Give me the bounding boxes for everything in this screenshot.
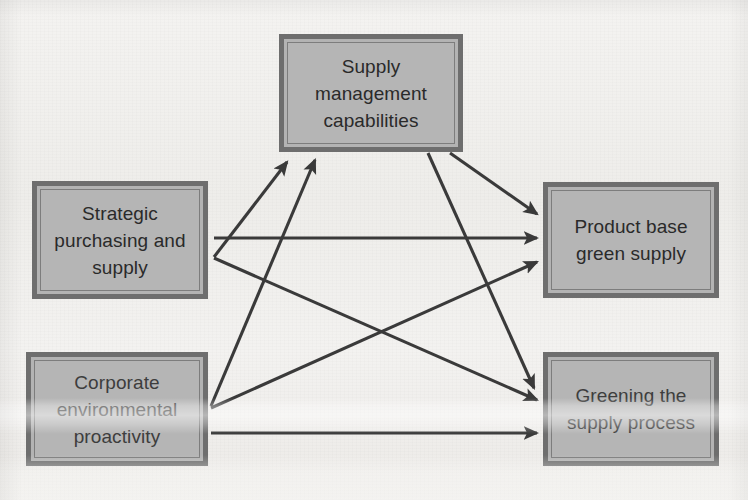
node-greening-the-supply-process-label: Greening the supply process xyxy=(567,382,695,436)
node-supply-management: Supply management capabilities xyxy=(279,34,463,152)
node-product-base-green-supply: Product base green supply xyxy=(543,182,719,298)
node-product-base-green-supply-label: Product base green supply xyxy=(574,213,687,267)
node-corporate-environmental-proactivity-inner: Corporate environmental proactivity xyxy=(34,360,200,458)
node-greening-the-supply-process-inner: Greening the supply process xyxy=(551,360,711,458)
node-supply-management-label: Supply management capabilities xyxy=(315,53,427,134)
node-greening-the-supply-process: Greening the supply process xyxy=(543,352,719,466)
diagram-canvas: Supply management capabilities Strategic… xyxy=(0,0,748,500)
node-strategic-purchasing: Strategic purchasing and supply xyxy=(32,181,208,299)
node-supply-management-inner: Supply management capabilities xyxy=(287,42,455,144)
node-strategic-purchasing-inner: Strategic purchasing and supply xyxy=(40,189,200,291)
node-corporate-environmental-proactivity-label: Corporate environmental proactivity xyxy=(57,369,178,450)
edge-supply-management-to-product-base xyxy=(450,153,537,214)
node-product-base-green-supply-inner: Product base green supply xyxy=(551,190,711,290)
node-strategic-purchasing-label: Strategic purchasing and supply xyxy=(54,200,185,281)
edge-strategic-to-supply-management xyxy=(214,162,287,257)
node-corporate-environmental-proactivity: Corporate environmental proactivity xyxy=(26,352,208,466)
edge-strategic-to-greening-process xyxy=(214,258,537,400)
